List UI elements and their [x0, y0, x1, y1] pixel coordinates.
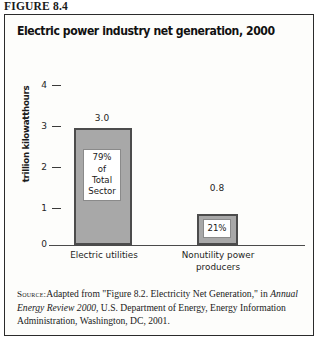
y-tick-mark-1: [52, 208, 61, 209]
bar-electric-utilities[interactable]: 79% of Total Sector: [74, 128, 132, 245]
x-axis-category-label-electric-utilities: Electric utilities: [63, 250, 145, 262]
x-axis-baseline: [49, 245, 305, 246]
figure-page: FIGURE 8.4 Electric power industry net g…: [0, 0, 321, 342]
bar-value-label-nonutility: 0.8: [189, 183, 245, 193]
y-tick-mark-4: [52, 85, 61, 86]
bar-inner-line-2: Total: [92, 175, 112, 186]
source-text-1: Adapted from "Figure 8.2. Electricity Ne…: [46, 288, 270, 299]
y-tick-mark-3: [52, 126, 61, 127]
chart-plot-area: trillion kilowatthours 4 3 2 1 0: [5, 45, 315, 277]
bar-nonutility-power-producers[interactable]: 21%: [197, 214, 238, 245]
y-tick-2: 2: [25, 162, 61, 174]
figure-number-caption: FIGURE 8.4: [4, 0, 68, 12]
source-label: Source:: [17, 289, 46, 299]
bar-inner-line-0: 21%: [207, 223, 226, 234]
bar-inner-label-electric-utilities: 79% of Total Sector: [83, 149, 121, 201]
bar-inner-line-3: Sector: [88, 186, 116, 197]
x-axis-category-label-nonutility: Nonutility power producers: [175, 250, 261, 273]
y-tick-mark-2: [52, 167, 61, 168]
y-tick-label-4: 4: [41, 79, 47, 91]
chart-title: Electric power industry net generation, …: [17, 24, 275, 38]
bar-inner-line-0: 79%: [92, 152, 111, 163]
y-tick-label-0: 0: [41, 238, 47, 250]
bar-inner-line-1: of: [98, 164, 106, 175]
source-note: Source:Adapted from "Figure 8.2. Electri…: [17, 287, 305, 328]
y-tick-label-2: 2: [41, 161, 47, 173]
figure-box: Electric power industry net generation, …: [4, 14, 314, 336]
bar-inner-label-nonutility: 21%: [203, 219, 231, 238]
y-tick-label-1: 1: [41, 202, 47, 214]
y-tick-1: 1: [25, 203, 61, 215]
y-tick-3: 3: [25, 121, 61, 133]
category-line-0: Nonutility power: [175, 250, 261, 262]
y-tick-4: 4: [25, 80, 61, 92]
y-tick-label-3: 3: [41, 120, 47, 132]
category-line-1: producers: [175, 262, 261, 274]
bar-value-label-electric-utilities: 3.0: [73, 113, 131, 123]
